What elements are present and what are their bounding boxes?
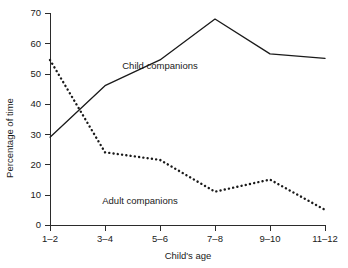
x-tick-label: 1–2 [42,233,58,244]
x-tick-label: 7–8 [207,233,223,244]
series-annotation-child-companions: Child companions [122,60,198,71]
y-axis-ticks: 010203040506070 [30,7,50,230]
chart-canvas: Percentage of time 010203040506070 1–23–… [0,0,348,268]
x-tick-label: 3–4 [97,233,113,244]
series-annotation-adult-companions: Adult companions [102,195,178,206]
series-line-adult-companions [50,60,325,210]
y-tick-label: 40 [30,98,41,109]
y-tick-label: 0 [36,219,41,230]
x-tick-label: 9–10 [259,233,280,244]
y-axis-title: Percentage of time [4,98,15,178]
x-axis-ticks: 1–23–45–67–89–1011–12 [42,225,338,244]
x-tick-label: 5–6 [152,233,168,244]
y-tick-label: 30 [30,129,41,140]
line-chart: Percentage of time 010203040506070 1–23–… [0,0,348,268]
x-tick-label: 11–12 [312,233,338,244]
series-layer [50,19,325,210]
x-axis-title: Child's age [165,250,212,261]
series-annotations: Child companionsAdult companions [102,60,198,206]
y-tick-label: 50 [30,68,41,79]
series-line-child-companions [50,19,325,137]
y-tick-label: 60 [30,38,41,49]
y-tick-label: 20 [30,159,41,170]
y-tick-label: 10 [30,189,41,200]
y-tick-label: 70 [30,7,41,18]
